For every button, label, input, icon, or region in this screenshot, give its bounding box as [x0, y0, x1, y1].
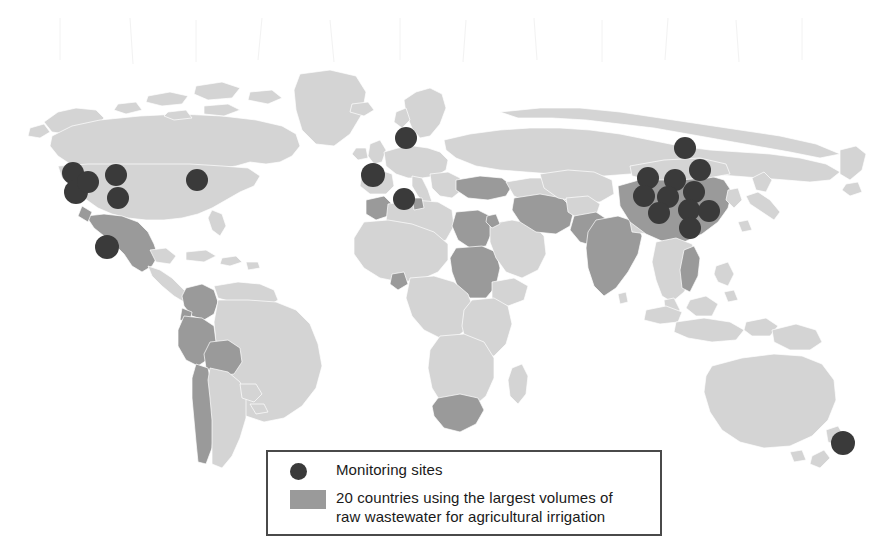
monitoring-site-dot [674, 137, 696, 159]
legend-label-monitoring-sites: Monitoring sites [336, 461, 443, 479]
monitoring-site-dot [395, 127, 417, 149]
monitoring-site-dot [186, 169, 208, 191]
legend-item-monitoring-sites: Monitoring sites [290, 461, 443, 480]
monitoring-site-dot [633, 185, 655, 207]
monitoring-site-dot-icon [290, 463, 307, 480]
monitoring-site-dot [648, 202, 670, 224]
monitoring-site-dot [689, 159, 711, 181]
monitoring-site-dot [679, 217, 701, 239]
legend-key-wrap-countries [290, 488, 336, 509]
monitoring-site-dot [95, 235, 119, 259]
monitoring-site-dot [393, 188, 415, 210]
highlight-country-swatch-icon [290, 490, 326, 509]
legend-key-wrap-sites [290, 461, 336, 480]
legend-item-countries: 20 countries using the largest volumes o… [290, 488, 613, 526]
monitoring-site-dot [77, 171, 99, 193]
world-map-figure: .land { fill: #d4d4d4; stroke: #ffffff; … [0, 0, 874, 554]
monitoring-site-dot [361, 163, 385, 187]
monitoring-site-dot [698, 200, 720, 222]
monitoring-site-dot [107, 187, 129, 209]
legend-label-countries: 20 countries using the largest volumes o… [336, 488, 613, 526]
monitoring-site-dot [831, 431, 855, 455]
legend: Monitoring sites 20 countries using the … [266, 450, 662, 536]
monitoring-site-dot [105, 164, 127, 186]
